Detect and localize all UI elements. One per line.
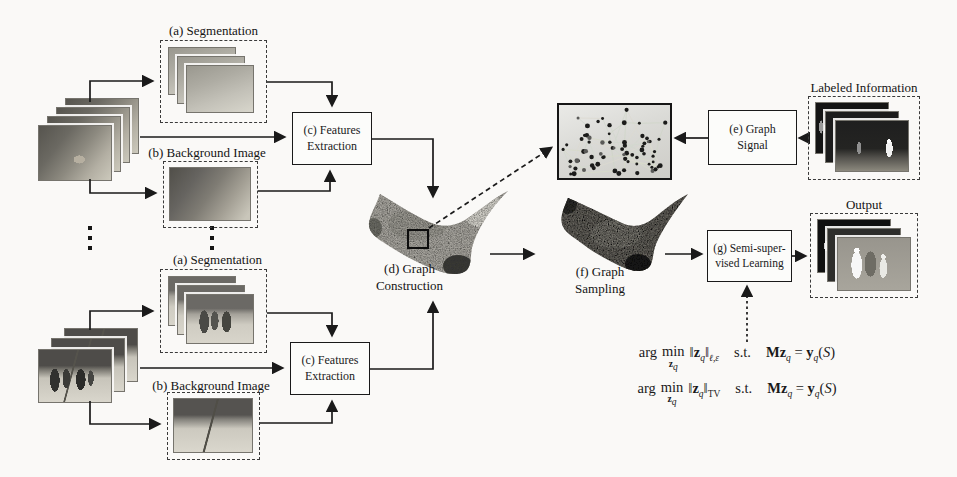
background-label-bottom: (b) Background Image [147,378,275,394]
background-frame [169,167,251,221]
equations-block: arg min zq ‖zq‖ℓ,ε s.t. Mzq = yq(S) arg … [587,344,887,408]
equation-1: arg min zq ‖zq‖ℓ,ε s.t. Mzq = yq(S) [587,344,887,372]
constraint-term: Mzq = yq(S) [767,380,836,399]
arrow-seg2-to-features2 [267,313,332,335]
constraint-term: Mzq = yq(S) [766,344,835,363]
figure-canvas: (a) Segmentation (b) Background Image (c… [0,0,957,477]
arrow-input1-to-bg1 [90,179,155,193]
features-extraction-line2: Extraction [307,139,357,155]
graph-zoom-rectangle [407,229,429,249]
equation-2: arg min zq ‖zq‖TV s.t. Mzq = yq(S) [587,380,887,408]
arrow-bg1-to-features1 [258,172,330,191]
background-frame [173,398,253,453]
segmentation-frame [186,65,254,113]
background-label-top: (b) Background Image [143,145,271,161]
graph-signal-box: (e) Graph Signal [708,110,797,165]
segmentation-box-top [160,40,267,123]
labeled-information-label: Labeled Information [799,80,929,96]
labeled-information-box [808,96,920,180]
graph-sampling-label: (f) Graph Sampling [566,264,634,298]
graph-construction-label: (d) Graph Construction [362,261,457,295]
norm-term: ‖zq‖TV [688,380,720,399]
arrow-seg1-to-features1 [267,82,332,105]
features-extraction-line2: Extraction [305,369,355,385]
arrow-bg2-to-features2 [260,402,332,423]
segmentation-box-bottom [160,269,267,353]
background-box-bottom [167,392,260,460]
output-frame [837,237,911,291]
output-box [810,213,918,298]
arrow-input2-to-bg2 [90,401,159,424]
arrow-input1-to-seg1 [90,81,152,102]
segmentation-label-bottom: (a) Segmentation [152,252,283,268]
background-box-top [163,161,258,228]
arrow-features1-to-graph [372,139,433,196]
features-extraction-box-bottom: (c) Features Extraction [290,342,370,395]
features-extraction-box-top: (c) Features Extraction [292,112,372,165]
norm-term: ‖zq‖ℓ,ε [690,344,719,363]
arrow-input2-to-seg2 [90,311,152,330]
labeled-frame [835,120,909,172]
arrow-zoom-dashed [429,148,551,228]
segmentation-frame [186,294,254,344]
features-extraction-line1: (c) Features [302,353,359,369]
segmentation-label-top: (a) Segmentation [148,23,279,39]
output-label: Output [811,197,917,213]
arrow-features2-to-graph [370,303,433,369]
features-extraction-line1: (c) Features [304,123,361,139]
semi-supervised-learning-box: (g) Semi-super- vised Learning [707,230,792,282]
